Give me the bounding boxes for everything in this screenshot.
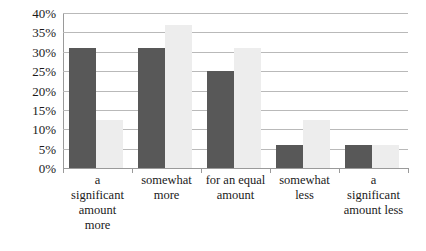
category-label-line: more xyxy=(63,218,132,233)
category-label-line: significant xyxy=(339,188,408,203)
bar-group xyxy=(63,13,132,168)
x-axis-category-label: asignificantamount less xyxy=(339,173,408,218)
x-axis-tickmark xyxy=(408,168,409,173)
y-axis-tick-label: 10% xyxy=(10,123,56,136)
x-axis-category-label: somewhatless xyxy=(270,173,339,203)
y-axis-tick-label: 5% xyxy=(10,142,56,155)
category-label-line: amount xyxy=(63,203,132,218)
category-label-line: for an equal xyxy=(201,173,270,188)
bar xyxy=(372,145,399,168)
bar xyxy=(69,48,96,168)
bar-group xyxy=(201,13,270,168)
category-label-line: significant xyxy=(63,188,132,203)
bar-group xyxy=(132,13,201,168)
y-axis-tick-label: 35% xyxy=(10,26,56,39)
category-label-line: somewhat xyxy=(132,173,201,188)
category-label-line: less xyxy=(270,188,339,203)
y-axis-tick-labels: 40%35%30%25%20%15%10%5%0% xyxy=(8,0,56,251)
bar-group xyxy=(339,13,408,168)
category-label-line: somewhat xyxy=(270,173,339,188)
category-label-line: a xyxy=(339,173,408,188)
y-axis-tick-label: 20% xyxy=(10,84,56,97)
bar xyxy=(234,48,261,168)
bar xyxy=(138,48,165,168)
y-axis-tick-label: 0% xyxy=(10,162,56,175)
bar xyxy=(207,71,234,168)
x-axis-category-label: asignificantamountmore xyxy=(63,173,132,233)
plot-area xyxy=(63,13,408,168)
bar-group xyxy=(270,13,339,168)
y-axis-tick-label: 15% xyxy=(10,103,56,116)
bar-chart: 40%35%30%25%20%15%10%5%0% asignificantam… xyxy=(0,0,426,251)
x-axis-line xyxy=(63,168,408,169)
bar xyxy=(165,25,192,168)
x-axis-category-labels: asignificantamountmoresomewhatmorefor an… xyxy=(63,173,408,251)
category-label-line: amount less xyxy=(339,203,408,218)
category-label-line: a xyxy=(63,173,132,188)
bar xyxy=(345,145,372,168)
y-axis-tick-label: 40% xyxy=(10,7,56,20)
y-axis-tick-label: 30% xyxy=(10,45,56,58)
category-label-line: amount xyxy=(201,188,270,203)
bar xyxy=(303,120,330,168)
x-axis-category-label: for an equalamount xyxy=(201,173,270,203)
y-axis-tick-label: 25% xyxy=(10,65,56,78)
bar xyxy=(96,120,123,168)
category-label-line: more xyxy=(132,188,201,203)
x-axis-category-label: somewhatmore xyxy=(132,173,201,203)
bar xyxy=(276,145,303,168)
